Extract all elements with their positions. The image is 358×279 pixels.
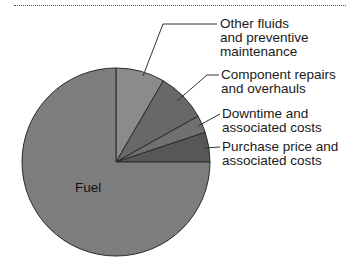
label-other-fluids: Other fluids and preventive maintenance: [220, 17, 309, 59]
label-fuel: Fuel: [75, 180, 101, 195]
leader-line-other-fluids: [143, 24, 217, 76]
label-purchase-price: Purchase price and associated costs: [222, 140, 338, 168]
label-component-repairs: Component repairs and overhauls: [221, 68, 336, 96]
leader-line-downtime: [198, 114, 220, 126]
label-downtime: Downtime and associated costs: [222, 107, 322, 135]
